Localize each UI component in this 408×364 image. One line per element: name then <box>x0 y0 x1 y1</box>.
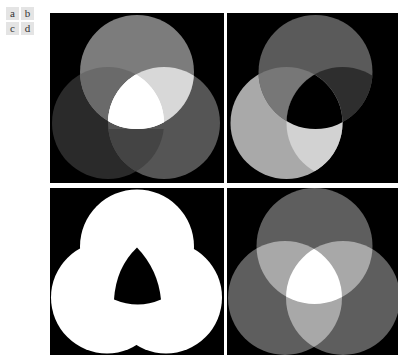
panel-a <box>50 13 224 183</box>
panel-b <box>227 13 398 183</box>
panel-d <box>227 188 398 355</box>
label-b: b <box>21 7 34 20</box>
venn-xor <box>227 13 398 183</box>
panel-c <box>50 188 224 355</box>
label-d: d <box>21 22 34 35</box>
label-c: c <box>6 22 19 35</box>
venn-equal <box>227 188 398 355</box>
venn-additive <box>50 13 224 183</box>
label-a: a <box>6 7 19 20</box>
panel-labels: a b c d <box>6 7 34 35</box>
venn-union <box>50 188 224 355</box>
